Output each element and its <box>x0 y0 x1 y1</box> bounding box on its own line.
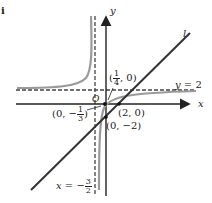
point-label-quarter: (14, 0) <box>109 70 137 87</box>
curve-left-branch <box>17 16 91 88</box>
graph-canvas <box>0 0 212 203</box>
vertical-asymptote-label: x = −32 <box>56 178 92 195</box>
graph-figure: i y x O l y = 2 x = −32 (14, 0) (2, 0) (… <box>0 0 212 203</box>
curve-right-branch <box>99 91 196 190</box>
point-label-2-0: (2, 0) <box>118 108 145 118</box>
line-label: l <box>183 29 186 39</box>
horizontal-asymptote-label: y = 2 <box>175 80 202 90</box>
point-2-0 <box>117 102 121 106</box>
corner-label: i <box>1 6 5 16</box>
y-axis-label: y <box>110 6 116 16</box>
leader-third <box>87 106 101 110</box>
origin-label: O <box>92 95 99 104</box>
point-label-0-neg2: (0, −2) <box>106 121 141 131</box>
point-0-neg2 <box>104 115 108 119</box>
x-axis-label: x <box>198 99 204 109</box>
point-origin-intercept <box>103 102 107 106</box>
point-label-neg-third: (0, −13) <box>52 106 88 123</box>
